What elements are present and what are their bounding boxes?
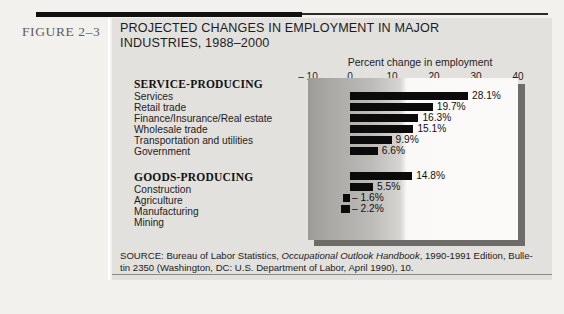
bar-value-manufacturing: – 1.6% <box>352 192 384 203</box>
bar-finance-insurance-real-estate <box>350 114 418 122</box>
bar-value-wholesale-trade: 15.1% <box>417 123 446 134</box>
bar-government <box>350 147 378 155</box>
bar-row-wholesale-trade: 15.1% <box>112 124 552 135</box>
bar-wholesale-trade <box>350 125 413 133</box>
bars-layer: 28.1% 19.7% 16.3% 15.1% 9.9% <box>112 78 552 240</box>
bar-services <box>350 92 468 100</box>
bar-row-manufacturing: – 1.6% <box>112 193 552 204</box>
bar-manufacturing <box>343 194 350 202</box>
header-rule-thick <box>36 12 302 17</box>
bar-agriculture <box>350 183 373 191</box>
source-note-line-2: tin 2350 (Washington, DC: U.S. Departmen… <box>120 262 544 274</box>
chart: Percent change in employment – 10 0 10 2… <box>112 56 552 242</box>
bar-retail-trade <box>350 103 433 111</box>
figure-title-line-2: INDUSTRIES, 1988–2000 <box>120 36 540 51</box>
figure-bottom-rule <box>112 274 552 275</box>
bar-row-transportation-and-utilities: 9.9% <box>112 135 552 146</box>
figure-number-label: FIGURE 2–3 <box>22 24 106 40</box>
header-rule-thin <box>302 13 548 15</box>
bar-mining <box>341 205 350 213</box>
bar-value-services: 28.1% <box>472 90 501 101</box>
source-note-suffix: , 1990-1991 Edition, Bulle- <box>420 250 533 261</box>
bar-value-transportation-and-utilities: 9.9% <box>396 134 419 145</box>
bar-value-construction: 14.8% <box>416 170 445 181</box>
bar-transportation-and-utilities <box>350 136 392 144</box>
bar-construction <box>350 172 412 180</box>
bar-row-retail-trade: 19.7% <box>112 102 552 113</box>
plot-panel-shadow-bottom <box>314 240 525 246</box>
bar-value-finance-insurance-real-estate: 16.3% <box>422 112 451 123</box>
source-note: SOURCE: Bureau of Labor Statistics, Occu… <box>120 250 544 274</box>
bar-value-mining: – 2.2% <box>352 203 384 214</box>
bar-row-finance-insurance-real-estate: 16.3% <box>112 113 552 124</box>
bar-value-retail-trade: 19.7% <box>437 101 466 112</box>
bar-value-government: 6.6% <box>382 145 405 156</box>
x-axis-caption: Percent change in employment <box>320 56 520 68</box>
bar-row-services: 28.1% <box>112 91 552 102</box>
bar-value-agriculture: 5.5% <box>377 181 400 192</box>
figure-title-line-1: PROJECTED CHANGES IN EMPLOYMENT IN MAJOR <box>120 21 540 36</box>
bar-row-mining: – 2.2% <box>112 204 552 215</box>
bar-row-government: 6.6% <box>112 146 552 157</box>
bar-row-construction: 14.8% <box>112 171 552 182</box>
source-note-title: Occupational Outlook Handbook <box>282 250 420 261</box>
source-note-line-1: SOURCE: Bureau of Labor Statistics, Occu… <box>120 250 544 262</box>
figure-label-divider <box>108 18 110 280</box>
source-note-prefix: SOURCE: Bureau of Labor Statistics, <box>120 250 282 261</box>
figure-title: PROJECTED CHANGES IN EMPLOYMENT IN MAJOR… <box>120 21 540 51</box>
bar-row-agriculture: 5.5% <box>112 182 552 193</box>
figure-body-panel: PROJECTED CHANGES IN EMPLOYMENT IN MAJOR… <box>112 18 552 280</box>
figure-container: FIGURE 2–3 PROJECTED CHANGES IN EMPLOYME… <box>0 0 564 314</box>
